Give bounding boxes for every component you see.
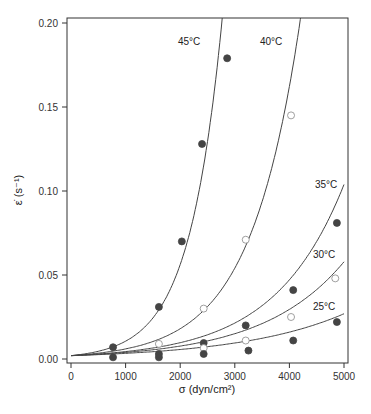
plot-frame [67,18,348,363]
x-axis-title: σ (dyn/cm²) [179,383,235,395]
x-tick-label: 5000 [333,371,356,382]
y-tick-label: 0.15 [39,102,59,113]
curve-label: 25°C [313,301,335,312]
curve-label: 45°C [178,36,200,47]
data-point-30c [242,337,249,344]
y-axis-title: ε̇ (s⁻¹) [12,175,24,205]
data-point-45c [155,303,162,310]
curve-label: 30°C [313,249,335,260]
fit-curve-35c [71,185,344,356]
y-tick-label: 0.00 [39,354,59,365]
strain-rate-chart: 0.000.050.100.150.20 0100020003000400050… [0,0,371,414]
data-point-35c [290,287,297,294]
data-point-45c [178,238,185,245]
x-tick-label: 1000 [114,371,137,382]
data-point-40c [155,340,162,347]
x-axis: 010002000300040005000 [68,363,355,382]
data-point-25c [155,350,162,357]
fit-curves [71,0,344,355]
data-point-40c [288,112,295,119]
x-tick-label: 3000 [224,371,247,382]
data-point-40c [242,236,249,243]
data-point-25c [290,337,297,344]
y-tick-label: 0.20 [39,18,59,29]
data-point-35c [110,354,117,361]
data-points [110,55,341,361]
data-point-45c [199,140,206,147]
data-point-25c [333,319,340,326]
data-point-25c [245,347,252,354]
data-point-35c [242,322,249,329]
y-axis: 0.000.050.100.150.20 [39,18,67,365]
y-tick-label: 0.05 [39,270,59,281]
fit-curve-40c [71,0,303,355]
fit-curve-45c [71,0,224,355]
x-tick-label: 4000 [278,371,301,382]
data-point-40c [200,305,207,312]
data-point-45c [110,344,117,351]
x-tick-label: 0 [68,371,74,382]
data-point-25c [200,350,207,357]
y-tick-label: 0.10 [39,186,59,197]
data-point-30c [332,275,339,282]
data-point-35c [333,219,340,226]
curve-label: 35°C [315,179,337,190]
x-tick-label: 2000 [169,371,192,382]
data-point-30c [288,314,295,321]
curve-label: 40°C [260,36,282,47]
data-point-45c [224,55,231,62]
